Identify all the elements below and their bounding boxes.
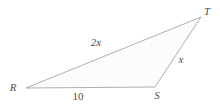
vertex-label-r: R (9, 81, 17, 93)
side-label-rt: 2x (91, 36, 102, 48)
triangle-shape (26, 17, 201, 88)
triangle-figure: R S T 2x x 10 (0, 0, 220, 107)
vertex-label-s: S (154, 89, 160, 101)
side-label-st: x (178, 53, 184, 65)
side-label-rs: 10 (73, 90, 85, 102)
vertex-label-t: T (204, 5, 211, 17)
geometry-diagram: R S T 2x x 10 (0, 0, 220, 107)
